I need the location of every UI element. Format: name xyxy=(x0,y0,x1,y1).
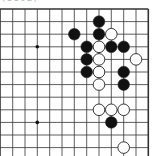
white-stone xyxy=(118,104,130,116)
white-stone xyxy=(93,54,105,66)
go-board xyxy=(0,0,153,156)
black-stone xyxy=(106,41,118,53)
black-stone xyxy=(118,66,130,78)
black-stone xyxy=(81,41,93,53)
black-stone xyxy=(81,54,93,66)
white-stone xyxy=(106,28,118,40)
black-stone xyxy=(69,28,81,40)
star-point xyxy=(36,121,40,125)
black-stone xyxy=(81,66,93,78)
white-stone xyxy=(93,66,105,78)
black-stone xyxy=(118,79,130,91)
star-point xyxy=(36,45,40,49)
black-stone xyxy=(93,28,105,40)
black-stone xyxy=(93,16,105,28)
white-stone xyxy=(130,54,142,66)
white-stone xyxy=(93,79,105,91)
white-stone xyxy=(93,104,105,116)
black-stone xyxy=(106,117,118,129)
white-stone xyxy=(118,142,130,154)
black-stone xyxy=(118,41,130,53)
white-stone xyxy=(106,104,118,116)
white-stone xyxy=(93,41,105,53)
